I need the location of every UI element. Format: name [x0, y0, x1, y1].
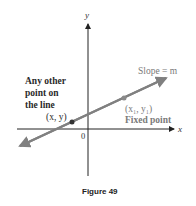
point-fixed	[122, 96, 127, 101]
other-point-label: (x, y)	[46, 112, 67, 123]
y-axis-label: y	[84, 10, 89, 20]
x-axis-label: x	[177, 124, 182, 134]
other-point-desc-line1: Any other	[25, 76, 67, 86]
other-point-desc-line2: point on	[25, 88, 59, 98]
slope-diagram: y x 0 Slope = m Any other point on the l…	[0, 0, 196, 206]
point-xy	[70, 120, 75, 125]
origin-label: 0	[81, 131, 85, 141]
figure-caption: Figure 49	[82, 187, 118, 196]
slope-label: Slope = m	[138, 66, 178, 76]
fixed-point-label: (x₁, y₁)	[125, 104, 152, 115]
other-point-desc-line3: the line	[25, 100, 55, 110]
fixed-point-desc: Fixed point	[125, 115, 172, 125]
